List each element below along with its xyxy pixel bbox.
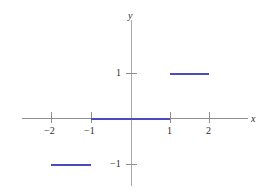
x-tick-label-pos1: 1 xyxy=(167,126,172,136)
x-tick-mark-pos2 xyxy=(209,112,210,123)
x-tick-mark-neg2 xyxy=(51,112,52,123)
y-axis-line xyxy=(131,20,132,186)
x-tick-label-neg2: −2 xyxy=(44,126,55,136)
x-axis-label: x xyxy=(251,114,255,124)
y-tick-label-pos1: 1 xyxy=(116,68,121,78)
y-tick-mark-pos1 xyxy=(126,73,137,74)
step-segment-upper-right xyxy=(170,73,209,75)
y-tick-mark-neg1 xyxy=(126,164,137,165)
step-segment-middle xyxy=(91,118,170,120)
x-tick-label-pos2: 2 xyxy=(206,126,211,136)
x-tick-label-neg1: −1 xyxy=(84,126,95,136)
step-function-plot: −2 −1 1 2 1 −1 y x xyxy=(0,0,271,192)
y-tick-label-neg1: −1 xyxy=(110,159,121,169)
step-segment-lower-left xyxy=(51,164,91,166)
x-tick-mark-pos1 xyxy=(170,112,171,123)
y-axis-label: y xyxy=(128,11,132,21)
